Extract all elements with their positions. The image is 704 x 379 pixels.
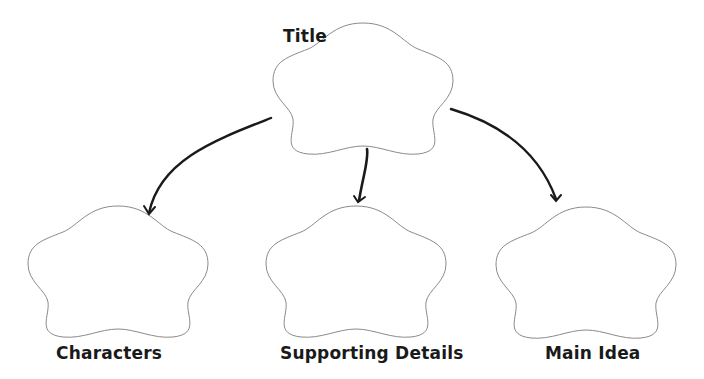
arrow-to-main-idea: [451, 109, 561, 201]
characters-label: Characters: [56, 343, 162, 363]
arrow-to-characters: [144, 118, 271, 214]
main-idea-shape: [496, 207, 676, 338]
arrow-to-supporting-details: [354, 149, 367, 202]
diagram-canvas: [0, 0, 704, 379]
supporting-details-label: Supporting Details: [280, 343, 464, 363]
title-label: Title: [283, 26, 327, 46]
supporting-details-shape: [266, 206, 446, 337]
characters-shape: [28, 206, 208, 337]
main-idea-label: Main Idea: [545, 343, 641, 363]
